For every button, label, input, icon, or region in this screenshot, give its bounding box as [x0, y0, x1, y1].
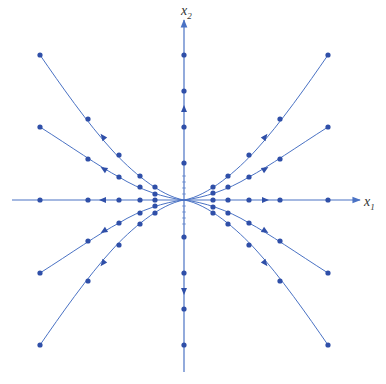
lower-right-shallow-point — [277, 238, 282, 243]
upper-right-shallow-point — [225, 184, 230, 189]
upper-right-steep-point — [225, 173, 230, 178]
lower-left-steep-point — [116, 242, 121, 247]
lower-left-shallow-point — [137, 210, 142, 215]
lower-left-steep-point — [137, 221, 142, 226]
upper-left-shallow-point — [37, 124, 42, 129]
upper-left-steep-point — [37, 52, 42, 57]
lower-right-steep-point — [325, 342, 330, 347]
x_negative-point — [37, 197, 42, 202]
y_positive-point — [181, 160, 186, 165]
lower-left-shallow-point — [37, 270, 42, 275]
lower-right-shallow-point — [325, 270, 330, 275]
upper-left-shallow-point — [85, 156, 90, 161]
upper-left-steep-point — [116, 152, 121, 157]
lower-right-shallow-point — [210, 204, 215, 209]
x_positive-point — [277, 197, 282, 202]
x_positive-point — [325, 197, 330, 202]
axes: x1 x2 — [12, 3, 375, 372]
phase-portrait-diagram: x1 x2 — [0, 0, 386, 384]
upper-left-shallow-point — [137, 184, 142, 189]
y_negative-arrow-icon — [181, 288, 187, 295]
y_negative-point — [181, 234, 186, 239]
lower-left-steep-arrow-icon — [98, 259, 107, 268]
y_positive-arrow-icon — [181, 105, 187, 112]
x_positive-point — [246, 197, 251, 202]
y_negative-point — [181, 270, 186, 275]
upper-left-steep-trajectory — [40, 55, 184, 200]
lower-left-steep-trajectory — [40, 200, 184, 345]
x_positive-point — [210, 197, 215, 202]
upper-left-steep-arrow-icon — [98, 132, 107, 141]
lower-right-steep-trajectory — [184, 200, 328, 345]
lower-left-shallow-point — [152, 203, 157, 208]
upper-left-shallow-point — [152, 191, 157, 196]
lower-left-steep-point — [152, 210, 157, 215]
upper-left-steep-point — [152, 184, 157, 189]
upper-right-shallow-point — [277, 156, 282, 161]
upper-left-steep-point — [137, 173, 142, 178]
y_positive-point — [181, 124, 186, 129]
upper-right-steep-point — [325, 52, 330, 57]
x_negative-point — [137, 197, 142, 202]
lower-right-steep-point — [277, 278, 282, 283]
y_positive-point — [181, 88, 186, 93]
lower-right-steep-point — [246, 242, 251, 247]
upper-right-steep-arrow-icon — [261, 132, 270, 141]
lower-right-shallow-trajectory — [184, 200, 328, 273]
x_negative-point — [152, 197, 157, 202]
upper-left-shallow-point — [116, 174, 121, 179]
phase-portrait-canvas: x1 x2 — [0, 0, 386, 384]
y_negative-point — [181, 342, 186, 347]
lower-right-steep-arrow-icon — [261, 259, 270, 268]
x_negative-arrow-icon — [99, 197, 106, 203]
y_negative-point — [181, 306, 186, 311]
lower-left-shallow-point — [85, 238, 90, 243]
lower-right-steep-point — [210, 210, 215, 215]
lower-right-steep-point — [225, 221, 230, 226]
lower-left-shallow-trajectory — [40, 200, 184, 273]
upper-right-shallow-trajectory — [184, 127, 328, 200]
upper-right-steep-point — [277, 116, 282, 121]
x1-axis-label: x1 — [363, 194, 375, 212]
upper-left-shallow-trajectory — [40, 127, 184, 200]
lower-left-steep-point — [85, 278, 90, 283]
y_positive-point — [181, 52, 186, 57]
x_positive-arrow-icon — [262, 197, 269, 203]
lower-right-shallow-point — [225, 210, 230, 215]
x_negative-point — [116, 197, 121, 202]
x_negative-point — [85, 197, 90, 202]
upper-right-shallow-point — [246, 174, 251, 179]
upper-right-steep-point — [210, 184, 215, 189]
lower-left-shallow-point — [116, 220, 121, 225]
upper-right-steep-trajectory — [184, 55, 328, 200]
upper-left-steep-point — [85, 116, 90, 121]
upper-right-steep-point — [246, 152, 251, 157]
upper-right-shallow-point — [325, 124, 330, 129]
lower-right-shallow-point — [246, 220, 251, 225]
upper-right-shallow-point — [210, 190, 215, 195]
lower-left-steep-point — [37, 342, 42, 347]
x2-axis-label: x2 — [180, 3, 192, 21]
x_positive-point — [225, 197, 230, 202]
